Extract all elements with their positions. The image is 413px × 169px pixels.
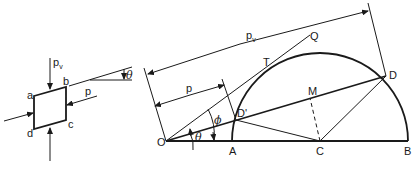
angle-theta-arrow xyxy=(190,129,191,136)
angle-phi-arrow xyxy=(213,132,214,140)
label-corner-a: a xyxy=(27,89,34,101)
label-B: B xyxy=(404,145,411,157)
dim-p-right-arrow xyxy=(190,85,224,95)
label-dim-p: p xyxy=(186,82,192,94)
mohr-circle-figure: pv b a c d p θ O A C B xyxy=(0,0,413,169)
dim-pv-left-arrow xyxy=(148,44,240,74)
label-p: p xyxy=(85,85,91,97)
label-dim-pv: pv xyxy=(246,29,256,43)
label-O: O xyxy=(157,136,166,148)
label-T: T xyxy=(263,56,270,68)
label-theta-element: θ xyxy=(126,69,133,82)
ext-line-O xyxy=(144,68,166,141)
label-D: D xyxy=(389,69,397,81)
label-theta-mohr: θ xyxy=(195,131,202,144)
ext-line-D xyxy=(368,3,386,76)
semicircle xyxy=(232,53,408,141)
label-D-prime: D' xyxy=(237,107,247,119)
label-phi: ϕ xyxy=(214,114,222,127)
stress-element xyxy=(4,58,132,161)
label-corner-d: d xyxy=(27,127,33,139)
label-M: M xyxy=(308,85,317,97)
label-corner-b: b xyxy=(63,75,69,87)
mohr-construction xyxy=(144,3,408,150)
label-A: A xyxy=(229,145,237,157)
label-pv: pv xyxy=(53,56,63,70)
line-Dprime-C xyxy=(236,120,320,141)
p-right-arrow xyxy=(67,96,97,105)
plane-line xyxy=(69,67,132,86)
dim-p-left-arrow xyxy=(155,95,190,106)
label-C: C xyxy=(316,145,324,157)
label-Q: Q xyxy=(310,30,319,42)
line-C-M-dashed xyxy=(310,98,320,141)
p-left-arrow xyxy=(4,113,33,121)
element-square xyxy=(34,87,66,129)
ext-line-Dprime xyxy=(222,79,236,120)
label-corner-c: c xyxy=(68,118,74,130)
